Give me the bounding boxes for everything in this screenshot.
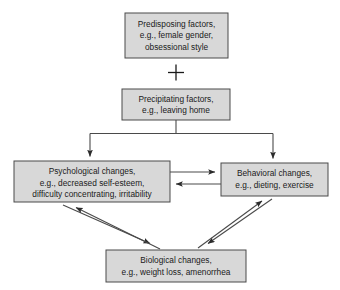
behavioral-changes-box[interactable]: Behavioral changes, e.g., dieting, exerc… (221, 163, 328, 196)
psychological-changes-line-2: e.g., decreased self-esteem, (40, 178, 145, 188)
predisposing-factors-line-1: Predisposing factors, (138, 19, 215, 29)
behavioral-changes-line-2: e.g., dieting, exercise (235, 180, 314, 190)
precipitating-factors-line-1: Precipitating factors, (138, 94, 213, 104)
biological-changes-box[interactable]: Biological changes, e.g., weight loss, a… (106, 250, 246, 282)
edge-biological-to-behavioral (198, 201, 262, 248)
precipitating-factors-line-2: e.g., leaving home (142, 105, 210, 115)
predisposing-factors-line-2: e.g., female gender, (140, 30, 213, 40)
biological-changes-line-1: Biological changes, (140, 255, 212, 265)
precipitating-factors-box[interactable]: Precipitating factors, e.g., leaving hom… (122, 89, 230, 120)
flowchart-diagram: Predisposing factors, e.g., female gende… (0, 0, 340, 290)
edge-behavioral-to-biological (208, 199, 272, 244)
node-layer: Predisposing factors, e.g., female gende… (14, 13, 328, 282)
edge-biological-to-psychological (76, 208, 160, 250)
plus-operator-icon (168, 65, 184, 81)
psychological-changes-box[interactable]: Psychological changes, e.g., decreased s… (14, 161, 170, 202)
predisposing-factors-line-3: obsessional style (145, 42, 209, 52)
psychological-changes-line-1: Psychological changes, (49, 166, 136, 176)
flowchart-canvas: Predisposing factors, e.g., female gende… (0, 0, 340, 290)
behavioral-changes-line-1: Behavioral changes, (237, 168, 312, 178)
predisposing-factors-box[interactable]: Predisposing factors, e.g., female gende… (125, 13, 228, 58)
psychological-changes-line-3: difficulty concentrating, irritability (32, 189, 152, 199)
biological-changes-line-2: e.g., weight loss, amenorrhea (122, 267, 231, 277)
